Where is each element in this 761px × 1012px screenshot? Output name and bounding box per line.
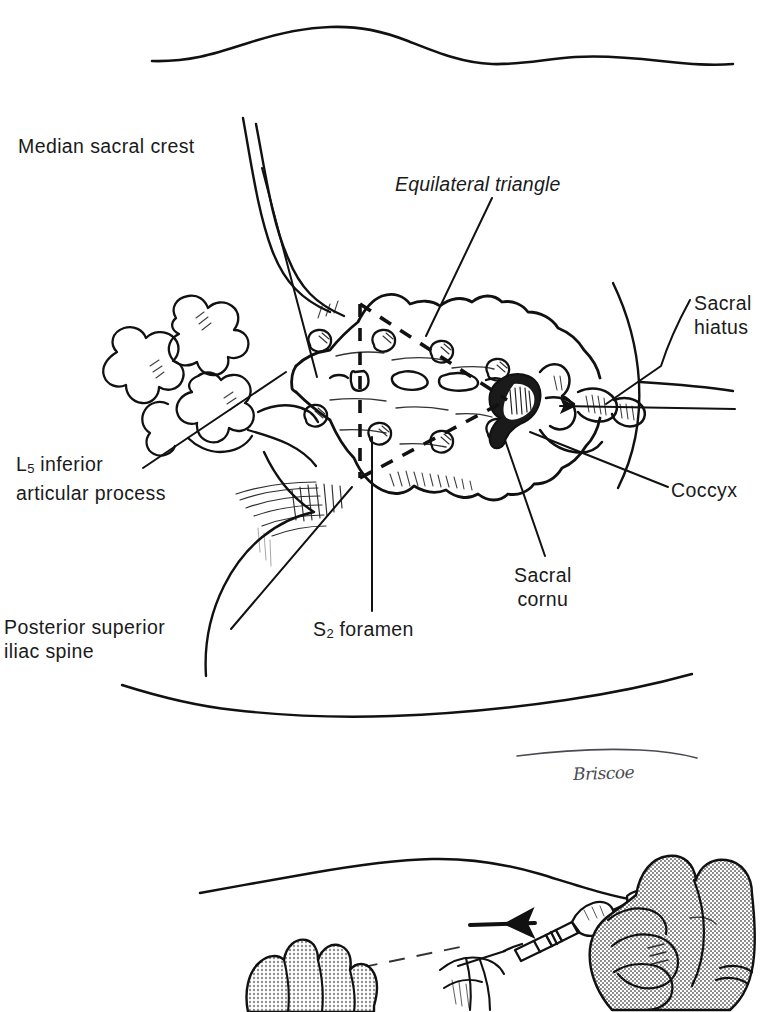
label-sacral-cornu-line1: Sacral — [514, 563, 572, 587]
label-sacral-cornu: Sacral cornu — [514, 563, 572, 611]
label-equilateral-triangle: Equilateral triangle — [395, 172, 561, 196]
sacral-foramina — [304, 330, 509, 453]
leader-sacral-hiatus — [606, 300, 690, 404]
leader-posterior-superior-iliac-spine — [231, 487, 352, 629]
median-sacral-crest — [330, 371, 506, 391]
triangle-lower-edge — [360, 400, 507, 478]
label-l5-line2: articular process — [16, 481, 166, 505]
leader-equilateral-triangle — [426, 198, 492, 336]
lower-body-outline — [200, 859, 640, 901]
leader-median-sacral-crest — [262, 168, 317, 377]
signature-flourish — [517, 749, 697, 758]
label-posterior-superior-iliac-spine: Posterior superior iliac spine — [4, 615, 165, 663]
sacrum-edge-hatching — [318, 301, 472, 490]
upper-body-outline — [152, 27, 733, 65]
anatomy-figure: Median sacral crest Equilateral triangle… — [0, 0, 761, 1012]
sacral-hiatus — [489, 374, 540, 448]
leader-lines — [143, 168, 735, 629]
gluteal-contours — [206, 118, 733, 676]
leader-sacral-cornu — [505, 440, 545, 556]
gluteal-hatch-faint — [258, 528, 271, 566]
sacral-ridges — [330, 352, 494, 447]
right-gloved-hand — [590, 856, 755, 1010]
label-sacral-cornu-line2: cornu — [514, 587, 572, 611]
label-coccyx: Coccyx — [671, 478, 737, 502]
insertion-site-folds — [440, 958, 504, 1011]
label-sacral-hiatus-line1: Sacral — [694, 291, 752, 315]
needle-direction-arrow — [470, 923, 535, 925]
label-psis-line1: Posterior superior — [4, 615, 165, 639]
left-gloved-hand — [247, 940, 377, 1012]
lower-body-contour-upper-panel — [122, 674, 692, 717]
label-l5-inferior-articular-process: L5 inferior articular process — [16, 452, 166, 505]
insertion-site-hatch — [452, 980, 469, 1008]
vertebra-shading — [150, 312, 238, 410]
label-sacral-hiatus-line2: hiatus — [694, 315, 752, 339]
artist-signature: Briscoe — [573, 762, 635, 784]
label-median-sacral-crest: Median sacral crest — [18, 134, 195, 158]
leader-coccyx-arrow — [560, 406, 735, 409]
label-sacral-hiatus: Sacral hiatus — [694, 291, 752, 339]
label-psis-line2: iliac spine — [4, 639, 165, 663]
lumbar-vertebrae — [103, 296, 318, 466]
label-l5-line1: L5 inferior — [16, 452, 166, 481]
foramina-shading — [315, 333, 507, 444]
label-s2-foramen: S2 foramen — [313, 617, 414, 646]
